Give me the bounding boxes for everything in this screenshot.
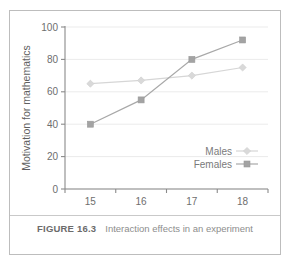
- x-axis-ticks: 15161718: [65, 189, 268, 207]
- figure-caption: FIGURE 16.3 Interaction effects in an ex…: [10, 223, 280, 234]
- chart-legend: MalesFemales: [194, 146, 258, 170]
- line-chart: 020406080100 15161718 Motivation for mat…: [10, 11, 280, 216]
- y-tick-label: 60: [47, 86, 59, 97]
- caption-divider: [10, 215, 280, 216]
- y-tick-label: 40: [47, 119, 59, 130]
- legend-label-females: Females: [194, 159, 232, 170]
- series-line-males: [90, 68, 242, 84]
- figure-number: FIGURE 16.3: [37, 223, 96, 234]
- gridlines: [65, 27, 268, 189]
- x-tick-label: 15: [85, 196, 97, 207]
- data-point: [87, 121, 93, 127]
- data-point: [138, 97, 144, 103]
- y-tick-label: 0: [52, 184, 58, 195]
- y-tick-label: 80: [47, 54, 59, 65]
- legend-marker-square: [244, 161, 250, 167]
- y-tick-label: 100: [41, 22, 58, 33]
- data-series-layer: [87, 37, 246, 127]
- x-tick-label: 16: [136, 196, 148, 207]
- y-tick-label: 20: [47, 151, 59, 162]
- x-tick-label: 18: [237, 196, 249, 207]
- data-point: [188, 72, 195, 79]
- x-tick-label: 17: [186, 196, 198, 207]
- chart-plot-area: 020406080100 15161718 Motivation for mat…: [10, 11, 280, 216]
- data-point: [189, 56, 195, 62]
- data-point: [240, 37, 246, 43]
- figure-container: 020406080100 15161718 Motivation for mat…: [9, 10, 281, 255]
- y-axis-ticks: 020406080100: [41, 22, 65, 195]
- legend-marker-diamond: [243, 147, 250, 154]
- data-point: [239, 64, 246, 71]
- data-point: [87, 80, 94, 87]
- figure-caption-text: Interaction effects in an experiment: [105, 223, 253, 234]
- y-axis-title: Motivation for mathematics: [20, 45, 32, 170]
- legend-label-males: Males: [205, 146, 232, 157]
- data-point: [138, 77, 145, 84]
